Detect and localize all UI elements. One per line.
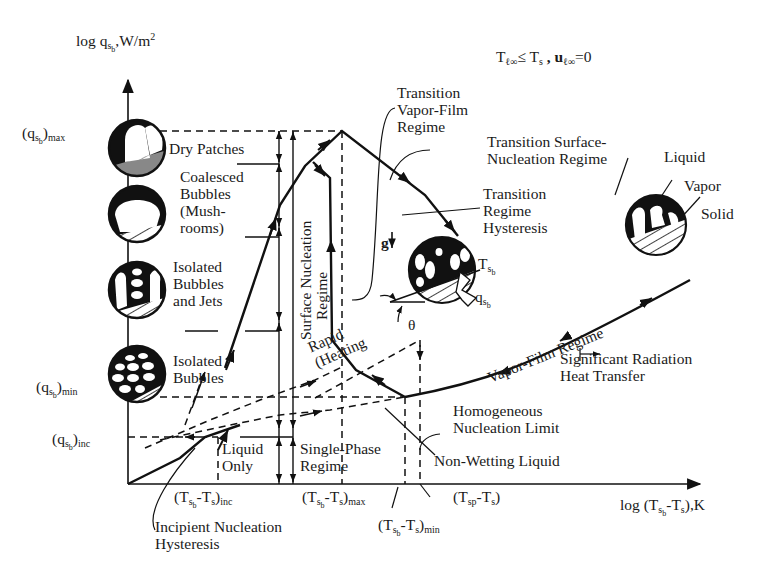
q-min-label: (qsb)min <box>36 378 78 404</box>
transition-surface-nucleation-label: Transition Surface- Nucleation Regime <box>487 133 607 167</box>
x-axis-label: log (Tsb-Ts),K <box>620 496 705 522</box>
transition-hysteresis-label: Transition Regime Hysteresis <box>483 185 548 236</box>
x-tick-sp: (Tsp-Ts) <box>453 488 500 510</box>
non-wetting-liquid-label: Non-Wetting Liquid <box>434 452 560 469</box>
isolated-bubbles-jets-label: Isolated Bubbles and Jets <box>173 258 224 309</box>
transition-vapor-film-label: Transition Vapor-Film Regime <box>397 84 468 135</box>
q-max-label: (qsb)max <box>22 124 65 150</box>
coalesced-bubbles-label: Coalesced Bubbles (Mush- rooms) <box>180 168 244 236</box>
boiling-curve-diagram <box>0 0 758 563</box>
dry-patches-label: Dry Patches <box>169 140 244 157</box>
x-tick-max: (Tsb-Ts)max <box>302 488 365 514</box>
homogeneous-nucleation-label: Homogeneous Nucleation Limit <box>453 402 559 436</box>
dashed-guides <box>128 131 420 484</box>
vapor-phase-label: Vapor <box>684 177 721 194</box>
x-tick-inc: (Tsb-Ts)inc <box>174 488 232 514</box>
surface-nucleation-label: Surface Nucleation <box>297 221 314 340</box>
surface-temp-label: Tsb <box>478 255 495 281</box>
isolated-bubbles-label: Isolated Bubbles <box>173 352 224 386</box>
radiation-label: Significant Radiation Heat Transfer <box>560 350 692 384</box>
y-axis-label: log qsb,W/m2 <box>76 28 155 58</box>
heat-flux-label: qsb <box>475 288 491 314</box>
incipient-hysteresis-label: Incipient Nucleation Hysteresis <box>155 518 282 552</box>
x-tick-min: (Tsb-Ts)min <box>378 516 440 542</box>
liquid-phase-label: Liquid <box>664 148 705 165</box>
contact-angle-label: θ <box>408 316 415 333</box>
single-phase-label: Single-Phase Regime <box>300 440 381 474</box>
condition-label: Tℓ∞≤ Ts , uℓ∞=0 <box>496 48 592 70</box>
liquid-only-label: Liquid Only <box>222 440 263 474</box>
gravity-label: g <box>381 234 389 251</box>
surface-nucleation-regime-label: Regime <box>313 272 330 320</box>
q-inc-label: (qsb)inc <box>52 430 90 456</box>
solid-phase-label: Solid <box>701 205 734 222</box>
